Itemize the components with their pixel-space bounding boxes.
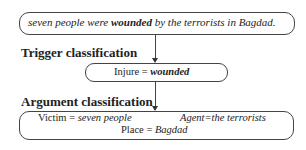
sentence-text-start: seven people were [28,16,111,28]
place-argument: Place = Bagdad [121,124,188,135]
event-type: Injure [114,66,139,77]
argument-classification-heading: Argument classification [21,94,153,110]
trigger-classification-heading: Trigger classification [21,45,137,61]
equals-sign: = [139,66,150,77]
agent-argument: Agent=the terrorists [180,112,266,123]
place-label: Place [121,124,144,135]
connector-line-2 [155,82,156,107]
victim-value: seven people [78,112,132,123]
victim-argument: Victim = seven people [38,112,132,123]
agent-label: Agent [180,112,205,123]
trigger-result: Injure = wounded [114,66,189,77]
sentence-text-end: by the terrorists in Bagdad. [152,16,276,28]
equals-sign: = [144,124,155,135]
connector-line-1 [155,35,156,59]
trigger-word: wounded [150,66,189,77]
equals-sign: = [205,112,212,123]
equals-sign: = [67,112,78,123]
place-value: Bagdad [155,124,188,135]
agent-value: the terrorists [212,112,266,123]
input-sentence: seven people were wounded by the terrori… [28,16,276,28]
victim-label: Victim [38,112,67,123]
sentence-trigger-word: wounded [111,16,152,28]
